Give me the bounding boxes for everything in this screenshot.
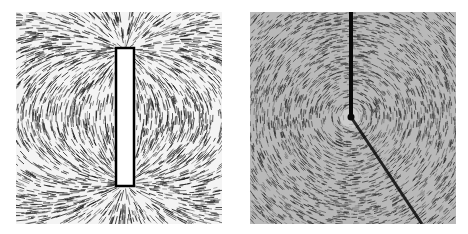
wire-filings-photo [250,12,456,224]
wire-field-pattern [250,12,456,224]
bar-magnet-field-pattern [16,12,222,224]
bar-magnet-filings-photo [16,12,222,224]
